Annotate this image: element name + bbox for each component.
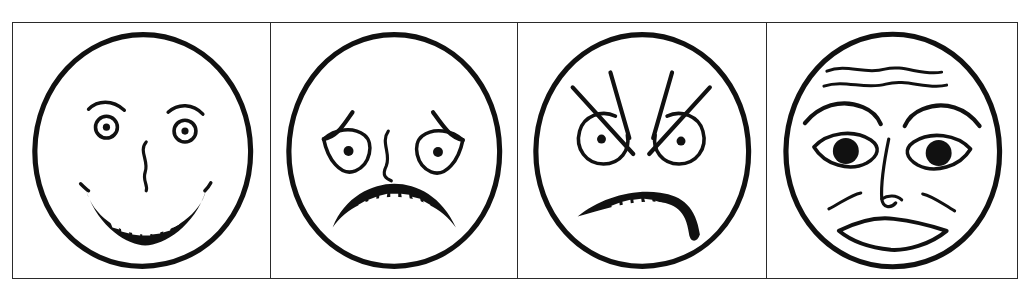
nostril-curl <box>881 196 901 200</box>
face-panel-happy: Happy face <box>13 23 271 278</box>
happy-face-drawing <box>13 23 270 278</box>
forehead-wrinkle-lower <box>823 82 946 86</box>
face-panel-fear: Fearful face <box>767 23 1018 278</box>
head-outline <box>289 35 500 267</box>
sad-face-drawing <box>271 23 517 278</box>
fear-face-drawing <box>767 23 1018 278</box>
head-outline <box>536 35 749 267</box>
mouth-frown-band <box>333 184 456 228</box>
cheek-line-left <box>828 193 860 209</box>
pupil-left <box>344 146 354 156</box>
nose-line <box>385 131 392 181</box>
mouth-open-lips <box>838 218 946 250</box>
eyebrow-right-inner-icon <box>653 72 672 138</box>
forehead-wrinkle-upper <box>826 68 941 73</box>
pupil-right <box>677 137 686 146</box>
pupil-left <box>597 135 606 144</box>
eyebrow-right-icon <box>168 106 203 114</box>
face-panel-angry: Angry face <box>518 23 767 278</box>
mouth-corner-left-tick <box>81 184 89 191</box>
mouth-smile-band <box>87 191 206 246</box>
cheek-line-right <box>922 194 954 211</box>
pupil-left <box>103 124 110 131</box>
pupil-right <box>434 147 444 157</box>
pupil-right <box>181 128 188 135</box>
mouth-corner-right-tick <box>205 183 211 191</box>
angry-face-drawing <box>518 23 766 278</box>
pupil-right <box>925 140 951 166</box>
nose-line <box>143 142 146 191</box>
eyebrow-left-icon <box>804 103 880 124</box>
figure-plate: Happy face <box>12 22 1018 279</box>
eyebrow-left-inner-icon <box>610 72 629 138</box>
eyebrow-right-icon <box>904 105 979 126</box>
face-panel-sad: Sad face <box>271 23 518 278</box>
eyebrow-left-icon <box>89 102 125 110</box>
pupil-left <box>832 138 858 164</box>
